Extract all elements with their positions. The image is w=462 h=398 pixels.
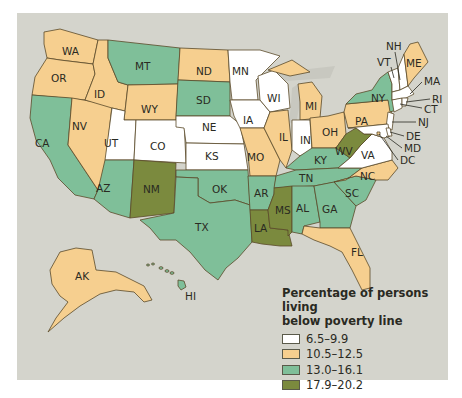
label-CO: CO: [150, 140, 166, 152]
label-HI: HI: [185, 290, 196, 302]
label-TN: TN: [298, 172, 313, 184]
label-WV: WV: [335, 145, 353, 157]
label-NY: NY: [371, 92, 386, 104]
state-AK[interactable]: [48, 248, 152, 332]
legend-title-line-1: Percentage of persons living: [282, 286, 452, 314]
label-NV: NV: [72, 120, 88, 132]
legend-item: 13.0–16.1: [282, 362, 452, 378]
label-FL: FL: [351, 246, 363, 258]
label-OK: OK: [212, 183, 228, 195]
label-IN: IN: [300, 134, 311, 146]
legend-label: 13.0–16.1: [306, 363, 363, 377]
legend: Percentage of persons living below pover…: [282, 286, 452, 393]
label-KY: KY: [314, 154, 328, 166]
label-LA: LA: [254, 222, 268, 234]
leader-line-ma: [410, 82, 422, 94]
state-PA[interactable]: [344, 100, 392, 128]
label-VT: VT: [377, 56, 391, 68]
label-IL: IL: [279, 131, 288, 143]
leader-line-ri: [406, 99, 430, 102]
label-MS: MS: [275, 204, 291, 216]
label-ID: ID: [94, 88, 105, 100]
label-VA: VA: [361, 149, 376, 161]
legend-swatch-class-4: [282, 380, 300, 390]
label-PA: PA: [355, 115, 369, 127]
legend-swatch-class-1: [282, 334, 300, 344]
legend-swatch-class-3: [282, 365, 300, 375]
state-HI[interactable]: [147, 263, 187, 290]
label-MO: MO: [247, 151, 264, 163]
legend-title-line-2: below poverty line: [282, 314, 452, 328]
legend-label: 10.5–12.5: [306, 347, 363, 361]
label-ND: ND: [196, 65, 212, 77]
label-AR: AR: [254, 187, 268, 199]
label-IA: IA: [243, 114, 254, 126]
label-NJ: NJ: [418, 116, 429, 128]
label-MI: MI: [305, 100, 317, 112]
label-MT: MT: [135, 60, 151, 72]
label-AK: AK: [75, 270, 90, 282]
label-WY: WY: [141, 103, 158, 115]
label-TX: TX: [194, 221, 209, 233]
state-FL[interactable]: [302, 226, 370, 290]
label-SD: SD: [196, 94, 211, 106]
legend-label: 17.9–20.2: [306, 378, 363, 392]
label-NC: NC: [360, 170, 375, 182]
label-UT: UT: [104, 137, 119, 149]
legend-item: 10.5–12.5: [282, 347, 452, 363]
label-NE: NE: [202, 121, 217, 133]
label-CT: CT: [424, 103, 438, 115]
label-GA: GA: [322, 203, 338, 215]
legend-label: 6.5–9.9: [306, 332, 348, 346]
label-WI: WI: [267, 92, 280, 104]
legend-swatch-class-2: [282, 349, 300, 359]
label-MA: MA: [424, 75, 441, 87]
label-DC: DC: [400, 154, 415, 166]
label-MN: MN: [232, 65, 249, 77]
label-KS: KS: [205, 150, 219, 162]
label-OR: OR: [51, 72, 67, 84]
label-OH: OH: [322, 126, 338, 138]
state-CT[interactable]: [392, 98, 402, 112]
label-DE: DE: [406, 130, 421, 142]
legend-item: 17.9–20.2: [282, 378, 452, 394]
label-AZ: AZ: [96, 182, 110, 194]
label-AL: AL: [296, 202, 309, 214]
label-WA: WA: [62, 45, 80, 57]
label-NH: NH: [386, 40, 402, 52]
legend-item: 6.5–9.9: [282, 331, 452, 347]
label-SC: SC: [345, 187, 359, 199]
label-NM: NM: [143, 183, 160, 195]
label-MD: MD: [404, 142, 421, 154]
label-CA: CA: [35, 137, 50, 149]
label-ME: ME: [406, 57, 422, 69]
